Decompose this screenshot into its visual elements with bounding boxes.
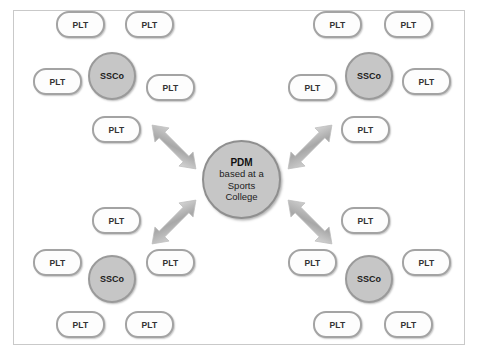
plt-label: PLT: [329, 20, 345, 30]
plt-label: PLT: [329, 320, 345, 330]
ssco-node[interactable]: SSCo: [345, 52, 393, 100]
plt-label: PLT: [72, 320, 88, 330]
plt-label: PLT: [72, 20, 88, 30]
plt-node[interactable]: PLT: [384, 311, 433, 338]
plt-node[interactable]: PLT: [125, 11, 174, 38]
plt-label: PLT: [162, 83, 178, 93]
ssco-node[interactable]: SSCo: [345, 255, 393, 303]
plt-label: PLT: [357, 125, 373, 135]
pdm-line-4: College: [225, 191, 257, 203]
pdm-line-3: Sports: [228, 180, 255, 192]
plt-node[interactable]: PLT: [288, 74, 337, 101]
arrow-pdm-to-top-right: [281, 118, 339, 176]
ssco-label: SSCo: [100, 274, 124, 284]
arrow-pdm-to-bottom-right: [281, 193, 339, 251]
plt-label: PLT: [108, 125, 124, 135]
plt-label: PLT: [357, 216, 373, 226]
plt-label: PLT: [418, 258, 434, 268]
arrow-pdm-to-top-left: [145, 118, 203, 176]
plt-label: PLT: [108, 216, 124, 226]
ssco-node[interactable]: SSCo: [88, 255, 136, 303]
plt-node[interactable]: PLT: [313, 11, 362, 38]
ssco-label: SSCo: [357, 71, 381, 81]
ssco-node[interactable]: SSCo: [88, 52, 136, 100]
plt-label: PLT: [49, 77, 65, 87]
plt-node[interactable]: PLT: [341, 116, 390, 143]
plt-label: PLT: [304, 258, 320, 268]
plt-node[interactable]: PLT: [146, 74, 195, 101]
pdm-title: PDM: [230, 157, 252, 169]
pdm-node[interactable]: PDM based at a Sports College: [202, 140, 281, 219]
plt-node[interactable]: PLT: [56, 11, 105, 38]
pdm-line-2: based at a: [219, 168, 263, 180]
arrow-pdm-to-bottom-left: [145, 193, 203, 251]
plt-label: PLT: [141, 20, 157, 30]
plt-node[interactable]: PLT: [402, 68, 451, 95]
plt-label: PLT: [141, 320, 157, 330]
plt-node[interactable]: PLT: [56, 311, 105, 338]
plt-label: PLT: [418, 77, 434, 87]
ssco-label: SSCo: [357, 274, 381, 284]
plt-node[interactable]: PLT: [313, 311, 362, 338]
plt-node[interactable]: PLT: [92, 207, 141, 234]
ssco-label: SSCo: [100, 71, 124, 81]
plt-label: PLT: [400, 20, 416, 30]
plt-node[interactable]: PLT: [33, 249, 82, 276]
plt-node[interactable]: PLT: [402, 249, 451, 276]
plt-node[interactable]: PLT: [341, 207, 390, 234]
plt-label: PLT: [49, 258, 65, 268]
plt-label: PLT: [400, 320, 416, 330]
plt-node[interactable]: PLT: [92, 116, 141, 143]
diagram-canvas: PLT PLT PLT PLT PLT SSCo PLT PLT PLT PLT…: [0, 0, 482, 357]
plt-label: PLT: [304, 83, 320, 93]
plt-node[interactable]: PLT: [384, 11, 433, 38]
plt-label: PLT: [162, 258, 178, 268]
plt-node[interactable]: PLT: [33, 68, 82, 95]
plt-node[interactable]: PLT: [146, 249, 195, 276]
plt-node[interactable]: PLT: [288, 249, 337, 276]
plt-node[interactable]: PLT: [125, 311, 174, 338]
